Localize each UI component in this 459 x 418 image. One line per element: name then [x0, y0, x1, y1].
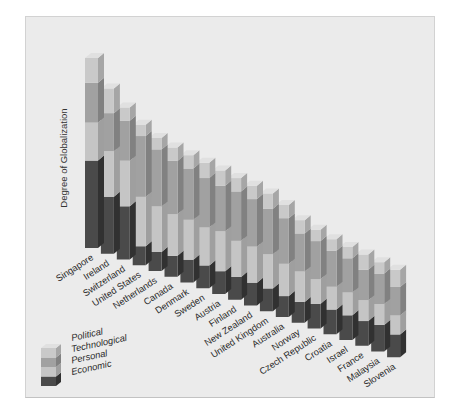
legend-cube-front-economic [41, 377, 56, 387]
segment-front-political [85, 58, 98, 83]
segment-side-personal [321, 274, 327, 304]
segment-side-technological [162, 144, 168, 206]
segment-side-technological [209, 173, 215, 227]
segment-side-personal [289, 259, 295, 296]
segment-side-personal [241, 236, 247, 277]
segment-side-political [114, 84, 120, 114]
segment-front-technological [85, 83, 98, 123]
segment-side-economic [368, 316, 374, 346]
segment-side-technological [289, 213, 295, 264]
segment-side-economic [321, 299, 327, 329]
segment-side-personal [209, 222, 215, 265]
segment-side-technological [352, 253, 358, 292]
segment-side-technological [241, 186, 247, 240]
segment-side-personal [114, 146, 120, 197]
segment-side-economic [352, 310, 358, 340]
segment-side-technological [114, 108, 120, 151]
segment-side-technological [225, 181, 231, 232]
segment-side-technological [257, 194, 263, 247]
segment-side-personal [178, 209, 184, 256]
legend-cube-front-political [41, 348, 56, 358]
segment-side-technological [273, 204, 279, 255]
segment-side-technological [193, 164, 199, 220]
legend-cube-front-personal [41, 367, 56, 377]
segment-side-personal [257, 242, 263, 283]
segment-side-personal [225, 226, 231, 271]
segment-side-technological [384, 269, 390, 304]
segment-side-political [98, 53, 104, 83]
segment-side-technological [146, 131, 152, 197]
segment-front-personal [85, 123, 98, 161]
y-axis-title: Degree of Globalization [58, 108, 69, 207]
segment-side-technological [337, 246, 343, 287]
segment-side-technological [321, 236, 327, 279]
segment-side-personal [98, 118, 104, 161]
segment-side-technological [400, 282, 406, 316]
segment-side-technological [305, 229, 311, 272]
legend-cube-front-technological [41, 358, 56, 368]
segment-front-economic [85, 161, 98, 248]
segment-side-technological [130, 116, 136, 161]
segment-side-technological [178, 156, 184, 214]
segment-side-personal [273, 249, 279, 288]
segment-side-economic [337, 305, 343, 335]
legend: PoliticalTechnologicalPersonalEconomic [41, 326, 129, 386]
chart-svg: Degree of Globalization SingaporeIreland… [0, 0, 459, 418]
bar-singapore [85, 53, 104, 248]
segment-side-personal [305, 267, 311, 302]
segment-side-economic [98, 156, 104, 248]
segment-side-personal [162, 201, 168, 252]
segment-side-economic [384, 320, 390, 352]
segment-side-personal [146, 192, 152, 247]
segment-side-personal [130, 156, 136, 207]
segment-side-economic [114, 192, 120, 254]
segment-side-technological [368, 265, 374, 300]
segment-side-technological [98, 78, 104, 123]
segment-side-personal [193, 215, 199, 260]
segment-side-economic [130, 201, 136, 259]
